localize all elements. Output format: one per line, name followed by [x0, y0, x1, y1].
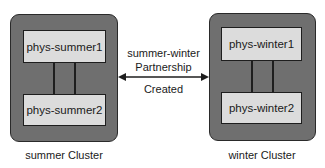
node-label: phys-summer1	[26, 41, 102, 53]
winter-cluster-label: winter Cluster	[206, 149, 318, 161]
winter-interconnect-line-1	[251, 61, 253, 92]
node-phys-summer1: phys-summer1	[23, 30, 106, 63]
node-label: phys-winter1	[229, 38, 294, 50]
summer-interconnect-line-2	[74, 63, 76, 94]
winter-interconnect-line-2	[272, 61, 274, 92]
partnership-line1: summer-winter	[118, 46, 209, 60]
node-phys-winter1: phys-winter1	[221, 27, 302, 61]
node-label: phys-winter2	[229, 102, 294, 114]
summer-interconnect-line-1	[53, 63, 55, 94]
node-phys-summer2: phys-summer2	[23, 94, 106, 126]
summer-cluster-label: summer Cluster	[8, 149, 120, 161]
partnership-label-top: summer-winter Partnership	[118, 46, 209, 74]
node-label: phys-summer2	[26, 104, 102, 116]
node-phys-winter2: phys-winter2	[221, 92, 302, 124]
partnership-label-bottom: Created	[118, 82, 209, 96]
